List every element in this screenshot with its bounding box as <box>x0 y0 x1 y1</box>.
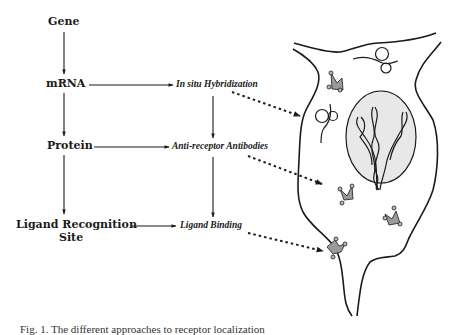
dotted-arrows <box>232 92 323 251</box>
dotted-arrow-to-intracellular-receptor <box>248 156 322 184</box>
figure-caption: Fig. 1. The different approaches to rece… <box>20 323 265 335</box>
label-in-situ-hybridization: In situ Hybridization <box>176 79 258 89</box>
receptor-top-left <box>327 71 343 92</box>
nucleus <box>346 91 416 183</box>
receptor-antibody-target <box>338 184 354 205</box>
label-site: Site <box>59 231 83 244</box>
dotted-arrow-to-mrna <box>232 92 300 116</box>
label-ligand-recognition: Ligand Recognition <box>16 218 137 231</box>
cell-membrane-top <box>294 33 436 52</box>
mrna-molecule <box>316 104 338 143</box>
label-anti-receptor-antibodies: Anti-receptor Antibodies <box>172 141 268 151</box>
mrna-molecule-top <box>353 48 398 74</box>
horizontal-arrows <box>89 85 176 226</box>
label-ligand-binding: Ligand Binding <box>180 220 242 230</box>
label-protein: Protein <box>47 139 93 152</box>
receptor-right <box>383 206 402 226</box>
label-mrna: mRNA <box>46 77 85 90</box>
dotted-arrow-to-surface-receptor <box>248 233 323 251</box>
receptor-membrane-surface <box>327 237 347 259</box>
label-gene: Gene <box>48 15 79 28</box>
